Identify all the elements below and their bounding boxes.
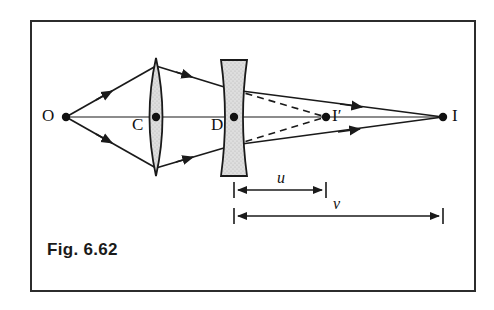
final-image-dot bbox=[439, 113, 447, 121]
construction-line-lower-dashed bbox=[234, 117, 326, 145]
label-concave-lens-center: D bbox=[211, 115, 223, 135]
label-object-point: O bbox=[42, 106, 54, 126]
ray-lower-incident-arrow bbox=[96, 134, 112, 143]
object-point-dot bbox=[62, 113, 70, 121]
ray-lower-intermediate-arrow bbox=[176, 157, 193, 162]
intermediate-image-dot bbox=[322, 113, 330, 121]
construction-line-upper-dashed bbox=[234, 90, 326, 117]
figure-caption: Fig. 6.62 bbox=[47, 240, 118, 260]
label-dimension-u: u bbox=[277, 169, 285, 187]
label-dimension-v: v bbox=[333, 195, 340, 213]
label-final-image-point: I bbox=[452, 106, 458, 126]
concave-lens-center-dot bbox=[230, 113, 238, 121]
figure-page: O C D I′ I u v Fig. 6.62 bbox=[0, 0, 494, 310]
ray-upper-intermediate-arrow bbox=[176, 72, 192, 77]
ray-upper-incident-arrow bbox=[96, 91, 112, 100]
convex-lens-center-dot bbox=[152, 113, 160, 121]
ray-diagram bbox=[0, 0, 494, 310]
label-convex-lens-center: C bbox=[132, 115, 143, 135]
label-intermediate-image-point: I′ bbox=[332, 106, 341, 126]
